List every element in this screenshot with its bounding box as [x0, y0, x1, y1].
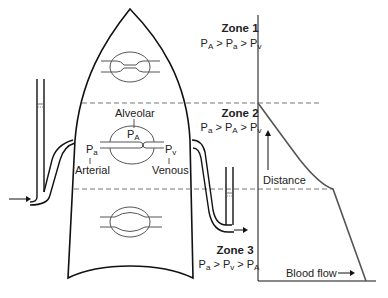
venous-manometer-icon: [192, 140, 234, 232]
zone2-relation: Pa > PA > Pv: [196, 121, 266, 133]
arterial-pressure-label: Pa: [86, 143, 98, 155]
zone2-title: Zone 2: [211, 107, 269, 119]
inflow-arrow-icon: [9, 196, 31, 202]
zone3-relation: Pa > Pv > PA: [194, 258, 264, 270]
zone3-capillary-icon: [100, 207, 162, 237]
alveolar-label: Alveolar: [115, 107, 155, 119]
zone3-title: Zone 3: [206, 244, 264, 256]
distance-arrow-icon: [265, 130, 271, 170]
venous-label: Venous: [152, 164, 189, 176]
zone2-capillary-icon: [100, 119, 164, 164]
outflow-arrow-icon: [234, 227, 248, 233]
arterial-label: Arterial: [75, 164, 110, 176]
blood-flow-curve: [258, 103, 366, 281]
zone1-capillary-icon: [101, 52, 160, 82]
venous-pressure-label: Pv: [165, 143, 176, 155]
distance-axis-label: Distance: [263, 174, 306, 186]
alveolar-pressure-label: PA: [127, 128, 140, 140]
zone1-relation: PA > Pa > Pv: [196, 37, 266, 49]
blood-flow-arrow-icon: [338, 270, 355, 276]
lung-zones-diagram: [0, 0, 388, 298]
zone1-title: Zone 1: [211, 22, 269, 34]
blood-flow-axis-label: Blood flow: [286, 267, 337, 279]
arterial-manometer-icon: [30, 79, 75, 205]
